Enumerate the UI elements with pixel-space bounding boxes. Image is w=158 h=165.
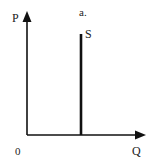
y-axis-label: P xyxy=(12,11,19,25)
supply-chart: P a. S 0 Q xyxy=(0,0,158,165)
x-axis-label: Q xyxy=(132,144,141,158)
x-axis-arrow-icon xyxy=(135,131,146,140)
y-axis-arrow-icon xyxy=(23,11,32,22)
supply-curve-label: S xyxy=(85,27,92,41)
origin-label: 0 xyxy=(15,145,21,157)
chart-title: a. xyxy=(79,6,87,18)
